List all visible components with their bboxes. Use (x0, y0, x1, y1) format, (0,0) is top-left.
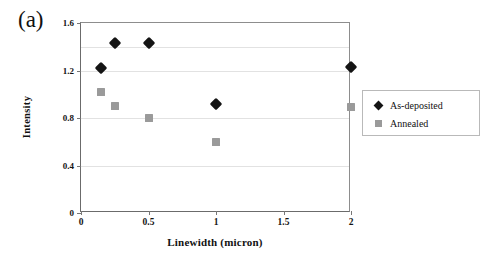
plot-area: 00.40.81.21.6 00.511.52 (80, 22, 350, 212)
x-tick-mark (284, 211, 285, 215)
legend-swatch-shape (375, 120, 382, 127)
y-tick-label: 0.8 (63, 113, 74, 123)
data-point-square (212, 138, 220, 146)
y-tick-label: 0.4 (63, 161, 74, 171)
x-tick-mark (149, 211, 150, 215)
x-axis-title: Linewidth (micron) (167, 236, 262, 248)
y-tick-label: 1.2 (63, 66, 74, 76)
data-point-diamond (210, 97, 223, 110)
y-tick-mark (77, 71, 81, 72)
gridline (81, 118, 349, 119)
x-tick-mark (216, 211, 217, 215)
scatter-chart-figure: (a) Intensity Linewidth (micron) 00.40.8… (0, 0, 488, 263)
legend-label: As-deposited (390, 100, 443, 111)
data-point-diamond (95, 62, 108, 75)
y-tick-mark (77, 23, 81, 24)
x-tick-label: 1.5 (278, 217, 290, 227)
x-tick-mark (351, 211, 352, 215)
legend-swatch-shape (373, 100, 383, 110)
legend-label: Annealed (390, 118, 428, 129)
chart-legend: As-depositedAnnealed (362, 90, 480, 136)
data-point-square (145, 114, 153, 122)
panel-label: (a) (18, 8, 44, 31)
square-marker-icon (371, 120, 385, 127)
diamond-marker-icon (371, 102, 385, 109)
legend-item: Annealed (371, 114, 473, 132)
x-tick-label: 0.5 (143, 217, 155, 227)
x-tick-label: 2 (349, 217, 354, 227)
legend-item: As-deposited (371, 96, 473, 114)
y-tick-label: 0 (70, 208, 75, 218)
y-tick-mark (77, 118, 81, 119)
x-tick-label: 0 (79, 217, 84, 227)
x-tick-mark (81, 211, 82, 215)
x-tick-label: 1 (214, 217, 219, 227)
y-tick-label: 1.6 (63, 18, 74, 28)
plot-inner: 00.40.81.21.6 00.511.52 (81, 23, 349, 211)
gridline (81, 166, 349, 167)
gridline (81, 47, 349, 48)
data-point-square (111, 102, 119, 110)
y-tick-mark (77, 166, 81, 167)
data-point-square (347, 103, 355, 111)
data-point-square (97, 88, 105, 96)
gridline (81, 71, 349, 72)
y-axis-title: Intensity (21, 96, 32, 138)
